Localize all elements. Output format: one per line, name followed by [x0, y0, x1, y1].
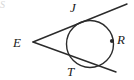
label-point-e: E: [13, 36, 21, 49]
circle-shape: [67, 21, 114, 68]
geometry-diagram: S E J T R: [0, 0, 134, 80]
label-point-t: T: [67, 65, 74, 78]
marked-point-r-dot: [110, 39, 114, 43]
label-point-j: J: [70, 1, 76, 14]
label-point-r: R: [117, 33, 125, 46]
lower-tangent-line: [33, 42, 116, 72]
